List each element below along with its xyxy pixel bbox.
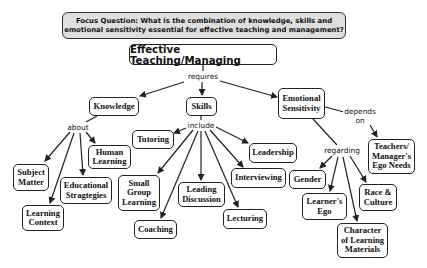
concept-map: Focus Question: What is the combination … <box>0 0 427 268</box>
link-label-depends-on: depends on <box>343 107 377 125</box>
node-learning-context[interactable]: Learning Context <box>22 205 64 231</box>
node-leading-discussion[interactable]: Leading Discussion <box>178 182 225 207</box>
node-educational-strategies[interactable]: Educational Stragtegies <box>60 177 112 204</box>
node-knowledge[interactable]: Knowledge <box>89 97 139 116</box>
link-label-include: include <box>187 121 216 130</box>
node-human-learning[interactable]: Human Learning <box>88 145 131 169</box>
node-lecturing[interactable]: Lecturing <box>223 209 267 229</box>
node-emotional-sensitivity[interactable]: Emotional Sensitivity <box>278 88 325 119</box>
node-tutoring[interactable]: Tutoring <box>132 130 174 149</box>
node-gender[interactable]: Gender <box>289 170 326 189</box>
node-subject-matter[interactable]: Subject Matter <box>13 164 49 191</box>
node-small-group-learning[interactable]: Small Group Learning <box>118 175 160 211</box>
node-skills[interactable]: Skills <box>186 97 217 116</box>
link-label-requires: requires <box>187 72 219 81</box>
node-character-learning-materials[interactable]: Character of Learning Materials <box>337 223 388 258</box>
node-learners-ego[interactable]: Learner's Ego <box>302 193 347 220</box>
node-interviewing[interactable]: Interviewing <box>231 168 286 188</box>
focus-question: Focus Question: What is the combination … <box>62 12 346 39</box>
link-label-regarding: regarding <box>323 146 361 155</box>
node-race-culture[interactable]: Race & Culture <box>359 184 397 211</box>
node-leadership[interactable]: Leadership <box>249 143 297 163</box>
link-label-about: about <box>66 123 89 132</box>
node-ego-needs[interactable]: Teachers/ Manager's Ego Needs <box>368 139 415 174</box>
root-node-effective-teaching[interactable]: Effective Teaching/Managing <box>129 44 277 65</box>
node-coaching[interactable]: Coaching <box>134 220 177 239</box>
